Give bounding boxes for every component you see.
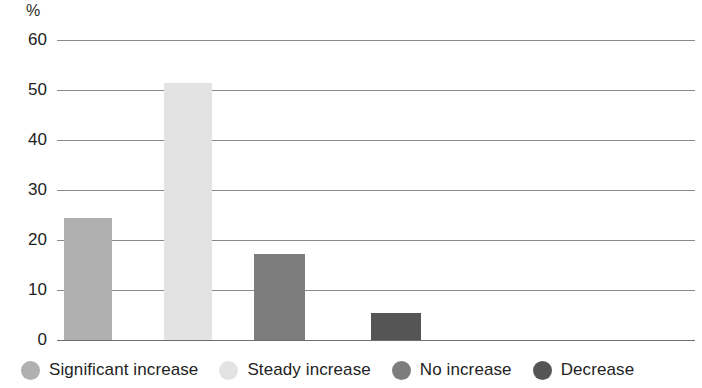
legend-item-label: Decrease xyxy=(561,360,635,380)
bar xyxy=(371,313,421,341)
legend-item-label: No increase xyxy=(420,360,512,380)
legend-item: Steady increase xyxy=(219,360,370,380)
bar xyxy=(254,254,305,341)
bar-chart-figure: % 0102030405060 Significant increaseStea… xyxy=(0,0,702,388)
legend-item-label: Significant increase xyxy=(49,360,198,380)
plot-area: % 0102030405060 xyxy=(0,0,702,350)
legend-circle-icon xyxy=(219,361,238,380)
legend-circle-icon xyxy=(392,361,411,380)
legend-circle-icon xyxy=(21,361,40,380)
legend-item: No increase xyxy=(392,360,512,380)
legend-circle-icon xyxy=(533,361,552,380)
chart-legend: Significant increaseSteady increaseNo in… xyxy=(0,352,702,388)
gridline-0 xyxy=(57,340,695,341)
legend-item: Significant increase xyxy=(21,360,198,380)
bars-group xyxy=(0,0,702,340)
legend-item-label: Steady increase xyxy=(247,360,370,380)
bar xyxy=(164,83,212,341)
legend-item: Decrease xyxy=(533,360,635,380)
bar xyxy=(64,218,112,341)
